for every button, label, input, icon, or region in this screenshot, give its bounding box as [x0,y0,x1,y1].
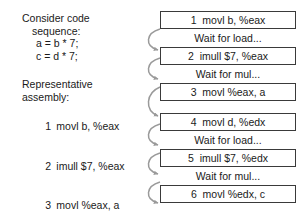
execution-step-label: 6 movl %edx, c [191,188,265,200]
execution-step-box: 5 imull $7, %edx [160,149,296,167]
execution-step-label: 1 movl b, %eax [191,14,266,26]
assembly-line-number: 1 [45,120,56,133]
execution-step-box: 1 movl b, %eax [160,11,296,29]
stall-arrow-1 [148,29,160,50]
assembly-heading-line2: assembly: [22,91,142,104]
execution-step-box: 4 movl d, %edx [160,113,296,131]
code-heading-line2: sequence: [22,25,142,38]
assembly-heading-line1: Representative [22,78,142,91]
stall-arrow-5 [148,153,160,174]
execution-sequence-panel: 1 movl b, %eax Wait for load... 2 imull … [160,0,298,223]
stall-arrow-6 [148,182,160,203]
stall-arrow-3 [148,87,160,116]
assembly-line-text: movl b, %eax [56,120,119,132]
wait-label: Wait for mul... [160,68,296,80]
assembly-line-number: 3 [45,199,56,212]
assembly-row: 1movl b, %eax [22,107,142,147]
wait-label: Wait for load... [160,134,296,146]
execution-step-box: 2 imull $7, %eax [160,47,296,65]
stall-arrow-4 [148,124,160,145]
wait-label: Wait for load... [160,32,296,44]
pipeline-stall-diagram: Consider code sequence: a = b * 7; c = d… [0,0,305,223]
execution-step-label: 4 movl d, %edx [191,116,266,128]
assembly-row: 2imull $7, %eax [22,147,142,187]
execution-step-label: 2 imull $7, %eax [188,50,268,62]
stall-arrow-2 [148,58,160,79]
assembly-line-text: imull $7, %eax [56,160,124,172]
section-spacer [22,62,142,78]
assembly-listing: 1movl b, %eax 2imull $7, %eax 3movl %eax… [22,107,142,223]
execution-step-box: 3 movl %eax, a [160,83,296,101]
code-heading-line1: Consider code [22,12,142,25]
source-code-line-2: c = d * 7; [22,50,142,63]
execution-step-box: 6 movl %edx, c [160,185,296,203]
assembly-row: 3movl %eax, a [22,186,142,223]
assembly-line-number: 2 [45,160,56,173]
execution-step-label: 3 movl %eax, a [191,86,266,98]
assembly-line-text: movl %eax, a [56,199,119,211]
wait-label: Wait for mul... [160,170,296,182]
explanation-panel: Consider code sequence: a = b * 7; c = d… [22,12,142,223]
execution-step-label: 5 imull $7, %edx [188,152,268,164]
source-code-line-1: a = b * 7; [22,37,142,50]
